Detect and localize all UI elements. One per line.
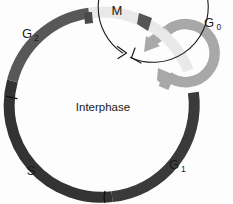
cell-cycle-diagram: M G 0 G 1 G 2 S Interphase [0,0,233,204]
g2-m-boundary-cap [84,12,93,24]
label-m-phase: M [112,3,123,18]
label-g1-phase: G [169,157,179,172]
label-g2-phase: G [22,26,32,41]
label-g1-phase-subscript: 1 [181,164,186,174]
label-g2-phase-subscript: 2 [34,33,39,43]
cell-cycle-svg: M G 0 G 1 G 2 S Interphase [0,0,233,204]
label-g0-phase-subscript: 0 [217,22,222,32]
label-interphase: Interphase [76,101,130,113]
label-g0-phase: G [204,15,214,30]
label-s-phase: S [27,163,36,178]
